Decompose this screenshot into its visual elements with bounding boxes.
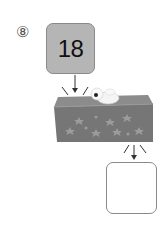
arrow-down-icon xyxy=(72,75,78,93)
exit-rays-icon xyxy=(124,145,146,153)
answer-box[interactable] xyxy=(106,162,157,214)
arrow-down-icon xyxy=(131,145,137,160)
